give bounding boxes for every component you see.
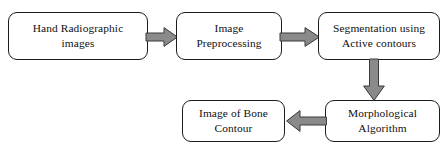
arrow-left-morphological-to-contour [286,110,327,132]
node-morphological-algorithm: Morphological Algorithm [325,100,440,142]
node-segmentation-using-active-contours: Segmentation using Active contours [318,12,440,60]
arrow-down-segmentation-to-morphological [363,59,385,101]
node-label: Image Preprocessing [192,21,265,51]
node-image-preprocessing: Image Preprocessing [176,12,282,60]
node-label: Image of Bone Contour [195,106,272,136]
node-hand-radiographic-images: Hand Radiographic images [8,12,148,60]
node-label: Morphological Algorithm [344,106,421,136]
arrow-right-images-to-preprocessing [146,27,178,47]
node-label: Segmentation using Active contours [329,21,429,51]
node-image-of-bone-contour: Image of Bone Contour [182,100,285,142]
node-label: Hand Radiographic images [29,21,128,51]
flowchart-diagram: Hand Radiographic images Image Preproces… [0,0,448,152]
arrow-right-preprocessing-to-segmentation [280,27,320,47]
